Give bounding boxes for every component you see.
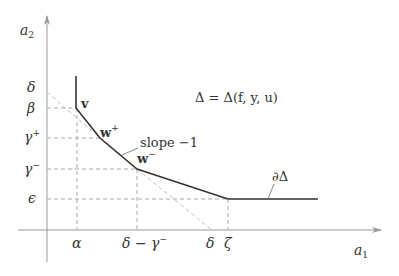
x-tick-delta: δ: [206, 235, 214, 251]
vertex-w-minus-label: w−: [136, 149, 156, 166]
vertex-v-label: v: [80, 96, 89, 111]
x-tick-delta-minus-gamma-minus: δ − γ−: [122, 234, 167, 251]
x-axis-label: a1: [354, 242, 368, 260]
slope-leader: [122, 148, 138, 155]
y-axis-label: a2: [20, 22, 34, 40]
slope-annotation: slope −1: [140, 135, 198, 150]
x-tick-alpha: α: [72, 235, 82, 251]
y-tick-gamma-plus: γ+: [24, 128, 40, 145]
boundary-leader: [268, 184, 274, 199]
x-tick-zeta: ζ: [224, 235, 233, 251]
y-tick-epsilon: ϵ: [28, 190, 36, 206]
delta-diagonal: [47, 92, 100, 138]
y-tick-gamma-minus: γ−: [24, 160, 40, 177]
newton-polygon-diagram: a2 a1 δ β γ+ γ− ϵ α δ − γ− δ ζ v w+ w− Δ…: [0, 0, 399, 276]
vertex-w-plus-label: w+: [99, 123, 119, 140]
y-tick-beta: β: [26, 100, 35, 116]
boundary-annotation: ∂Δ: [272, 169, 288, 184]
y-tick-delta: δ: [27, 79, 35, 95]
polygon-definition: Δ = Δ(f, y, u): [195, 90, 278, 105]
